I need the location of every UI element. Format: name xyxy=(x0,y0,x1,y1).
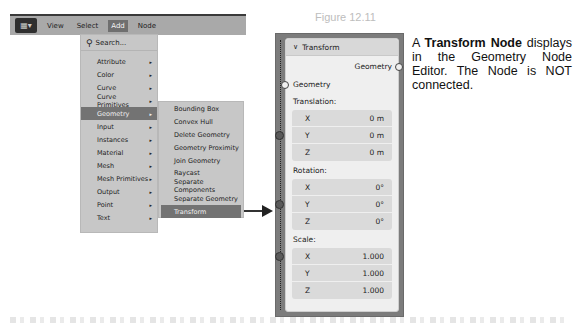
faint-text-line xyxy=(10,317,570,323)
translation-vector: X0 m Y0 m Z0 m xyxy=(292,110,392,161)
axis-label: Z xyxy=(305,217,310,226)
field-value: 0 m xyxy=(370,131,384,140)
submenu-arrow-icon: ▸ xyxy=(149,137,152,143)
menu-item-material[interactable]: Material▸ xyxy=(81,146,157,159)
axis-label: X xyxy=(305,252,310,261)
submenu-item-separate-geometry[interactable]: Separate Geometry xyxy=(159,193,243,206)
submenu-item-bounding-box[interactable]: Bounding Box xyxy=(159,103,243,116)
node-editor-icon: ▦▾ xyxy=(20,21,32,30)
menu-item-label: Color xyxy=(97,71,114,79)
collapse-chevron-icon[interactable]: ∨ xyxy=(293,43,298,51)
menu-item-point[interactable]: Point▸ xyxy=(81,198,157,211)
scale-socket[interactable] xyxy=(275,252,284,261)
axis-label: Y xyxy=(305,131,310,140)
output-geometry-label: Geometry xyxy=(355,62,392,71)
translation-socket[interactable] xyxy=(275,131,284,140)
scale-y-field[interactable]: Y1.000 xyxy=(292,265,392,282)
menu-item-output[interactable]: Output▸ xyxy=(81,185,157,198)
editor-header: ▦▾ View Select Add Node xyxy=(10,14,246,35)
submenu-arrow-icon: ▸ xyxy=(149,176,152,182)
rotation-vector: X0° Y0° Z0° xyxy=(292,179,392,230)
submenu-arrow-icon: ▸ xyxy=(149,163,152,169)
menu-item-label: Mesh xyxy=(97,162,114,170)
rotation-x-field[interactable]: X0° xyxy=(292,179,392,196)
menu-item-instances[interactable]: Instances▸ xyxy=(81,133,157,146)
figure-description: A Transform Node displays in the Geometr… xyxy=(412,36,572,92)
field-value: 1.000 xyxy=(363,286,384,295)
pointer-arrow-line xyxy=(244,210,264,212)
submenu-arrow-icon: ▸ xyxy=(149,215,152,221)
node-header[interactable]: ∨ Transform xyxy=(286,39,398,56)
scale-z-field[interactable]: Z1.000 xyxy=(292,282,392,299)
menu-item-mesh-primitives[interactable]: Mesh Primitives▸ xyxy=(81,172,157,185)
submenu-arrow-icon: ▸ xyxy=(149,85,152,91)
menu-item-label: Instances xyxy=(97,136,128,144)
menu-item-label: Output xyxy=(97,188,120,196)
translation-y-field[interactable]: Y0 m xyxy=(292,127,392,144)
submenu-item-transform[interactable]: Transform xyxy=(161,205,241,218)
search-icon: ⚲ xyxy=(86,38,93,48)
menu-item-label: Text xyxy=(97,214,110,222)
translation-z-field[interactable]: Z0 m xyxy=(292,144,392,161)
description-bold: Transform Node xyxy=(425,36,522,50)
geometry-submenu: Bounding Box Convex Hull Delete Geometry… xyxy=(158,101,244,218)
description-prefix: A xyxy=(412,36,425,50)
submenu-arrow-icon: ▸ xyxy=(149,124,152,130)
axis-label: Z xyxy=(305,286,310,295)
menu-item-label: Mesh Primitives xyxy=(97,175,148,183)
menu-node[interactable]: Node xyxy=(135,20,159,32)
scale-label: Scale: xyxy=(286,234,398,246)
menu-item-label: Geometry xyxy=(97,110,129,118)
axis-label: Y xyxy=(305,269,310,278)
field-value: 0° xyxy=(375,200,384,209)
input-geometry-label: Geometry xyxy=(293,80,330,89)
output-geometry-socket[interactable] xyxy=(395,63,403,71)
field-value: 1.000 xyxy=(363,269,384,278)
submenu-item-delete-geometry[interactable]: Delete Geometry xyxy=(159,129,243,142)
input-geometry-socket[interactable] xyxy=(281,81,289,89)
axis-label: Z xyxy=(305,148,310,157)
field-value: 0 m xyxy=(370,148,384,157)
menu-item-input[interactable]: Input▸ xyxy=(81,120,157,133)
submenu-arrow-icon: ▸ xyxy=(149,59,152,65)
input-geometry-row: Geometry xyxy=(286,78,398,92)
menu-item-text[interactable]: Text▸ xyxy=(81,211,157,224)
submenu-arrow-icon: ▸ xyxy=(149,189,152,195)
menu-select[interactable]: Select xyxy=(74,20,102,32)
scale-x-field[interactable]: X1.000 xyxy=(292,248,392,265)
submenu-arrow-icon: ▸ xyxy=(149,150,152,156)
search-label: Search... xyxy=(96,39,127,47)
submenu-item-separate-components[interactable]: Separate Components xyxy=(159,180,243,193)
search-item[interactable]: ⚲ Search... xyxy=(81,35,157,51)
field-value: 0° xyxy=(375,183,384,192)
menu-item-geometry[interactable]: Geometry▸ xyxy=(81,107,157,120)
output-geometry-row: Geometry xyxy=(286,60,398,74)
menu-view[interactable]: View xyxy=(44,20,67,32)
menu-item-label: Curve Primitives xyxy=(97,93,149,109)
translation-x-field[interactable]: X0 m xyxy=(292,110,392,127)
translation-label: Translation: xyxy=(286,96,398,108)
axis-label: Y xyxy=(305,200,310,209)
submenu-arrow-icon: ▸ xyxy=(149,111,152,117)
transform-node[interactable]: ∨ Transform Geometry Geometry Translatio… xyxy=(285,38,399,312)
scale-vector: X1.000 Y1.000 Z1.000 xyxy=(292,248,392,299)
menu-item-color[interactable]: Color▸ xyxy=(81,68,157,81)
menu-add[interactable]: Add xyxy=(108,20,128,32)
menu-item-curve-primitives[interactable]: Curve Primitives▸ xyxy=(81,94,157,107)
field-value: 0 m xyxy=(370,114,384,123)
node-title: Transform xyxy=(302,43,339,52)
rotation-z-field[interactable]: Z0° xyxy=(292,213,392,230)
node-editor-canvas: ∨ Transform Geometry Geometry Translatio… xyxy=(275,33,404,317)
submenu-arrow-icon: ▸ xyxy=(149,72,152,78)
editor-type-button[interactable]: ▦▾ xyxy=(15,18,37,33)
submenu-item-join-geometry[interactable]: Join Geometry xyxy=(159,154,243,167)
menu-item-label: Material xyxy=(97,149,123,157)
submenu-item-geometry-proximity[interactable]: Geometry Proximity xyxy=(159,141,243,154)
menu-item-attribute[interactable]: Attribute▸ xyxy=(81,55,157,68)
rotation-y-field[interactable]: Y0° xyxy=(292,196,392,213)
menu-item-mesh[interactable]: Mesh▸ xyxy=(81,159,157,172)
submenu-arrow-icon: ▸ xyxy=(149,202,152,208)
rotation-socket[interactable] xyxy=(275,200,284,209)
rotation-label: Rotation: xyxy=(286,165,398,177)
submenu-item-convex-hull[interactable]: Convex Hull xyxy=(159,116,243,129)
